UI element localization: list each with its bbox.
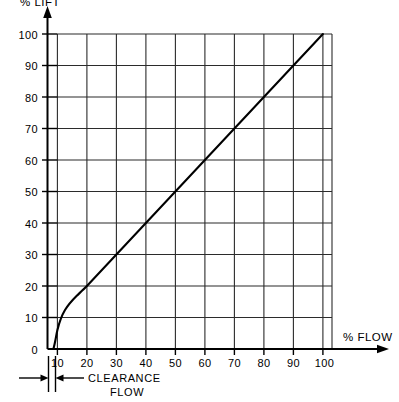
x-tick-label: 80 [257,357,270,369]
x-tick-label: 40 [139,357,152,369]
x-tick-label: 70 [228,357,241,369]
x-tick-label: 10 [51,357,64,369]
y-tick-label: 20 [25,281,38,293]
y-tick-label: 50 [25,186,38,198]
y-tick-label: 60 [25,155,38,167]
x-axis-title: % FLOW [343,331,393,343]
x-tick-label: 30 [110,357,123,369]
clearance-flow-label-line2: FLOW [110,386,144,398]
y-tick-label: 90 [25,60,38,72]
chart-screenshot: 100 90 80 70 60 50 40 30 20 10 0 10 20 3… [0,0,399,402]
x-tick-label: 20 [80,357,93,369]
y-tick-label: 100 [18,29,38,41]
y-tick-label: 70 [25,123,38,135]
y-axis-title: % LIFT [20,0,60,8]
y-tick-label: 80 [25,92,38,104]
y-tick-label: 30 [25,249,38,261]
x-tick-label: 90 [287,357,300,369]
y-tick-label: 10 [25,312,38,324]
lift-vs-flow-chart: 100 90 80 70 60 50 40 30 20 10 0 10 20 3… [0,0,399,402]
clearance-flow-label-line1: CLEARANCE [88,372,161,384]
x-tick-label: 50 [169,357,182,369]
x-tick-label: 60 [198,357,211,369]
x-tick-label: 100 [315,357,335,369]
y-tick-label-origin: 0 [31,344,38,356]
y-tick-label: 40 [25,218,38,230]
chart-background [0,0,399,402]
